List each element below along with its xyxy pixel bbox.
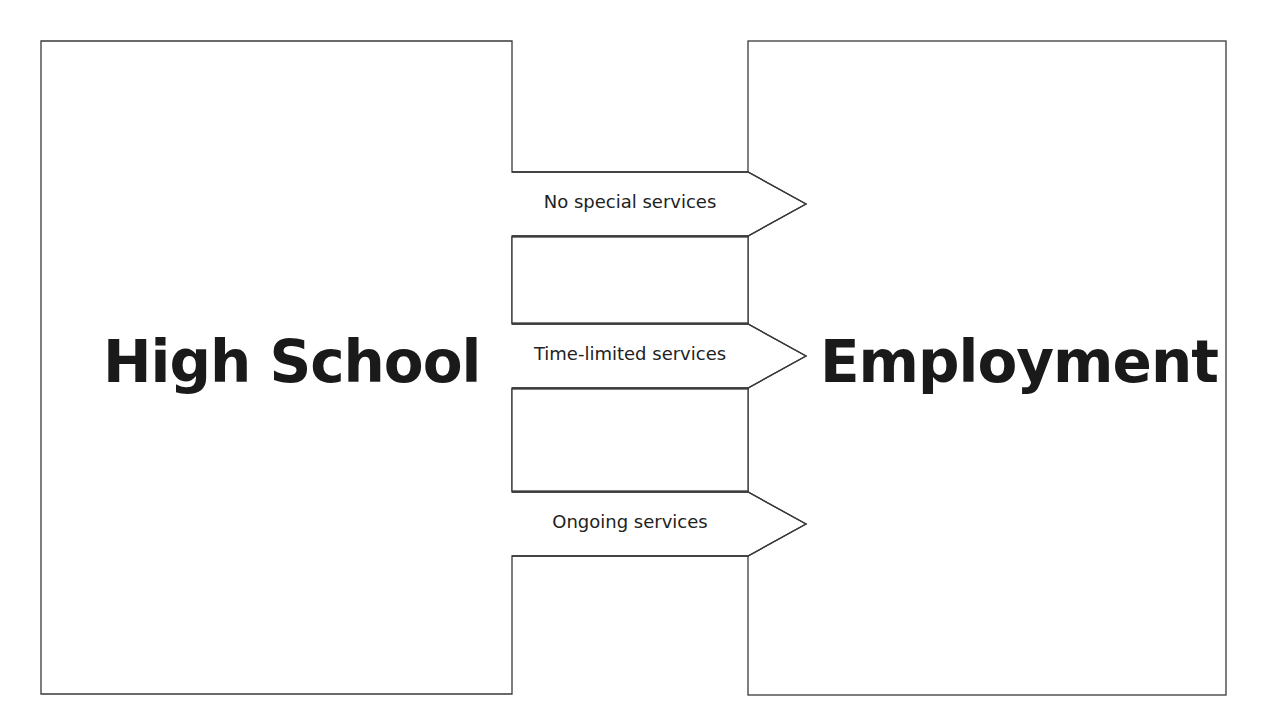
pathway-label-ongoing-services: Ongoing services	[512, 513, 748, 531]
gap-rect-2	[512, 389, 748, 491]
pathway-label-time-limited-services: Time-limited services	[512, 345, 748, 363]
high-school-label: High School	[103, 333, 480, 391]
pathway-label-no-special-services: No special services	[512, 193, 748, 211]
employment-label: Employment	[820, 333, 1218, 391]
gap-rect-1	[512, 237, 748, 323]
